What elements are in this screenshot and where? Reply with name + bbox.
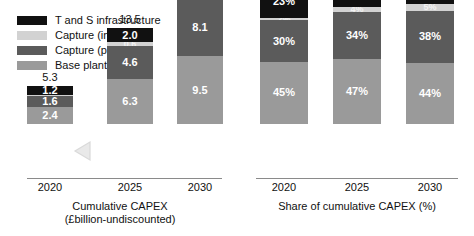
x-axis-line-left (27, 178, 222, 179)
chart-panel-cumulative-capex: 5.3 1.2 1.6 2.4 13.5 2.0 0.6 4.6 6.3 21.… (0, 0, 240, 236)
segment-capture-power-2025: 4.6 (107, 46, 153, 79)
segment-capture-power-share-2020: 30% (260, 20, 308, 61)
segment-base-plant-2030: 9.5 (177, 56, 223, 124)
play-triangle-watermark-icon (70, 138, 96, 164)
caption-left-line1: Cumulative CAPEX (0, 200, 240, 213)
plot-area-left: 5.3 1.2 1.6 2.4 13.5 2.0 0.6 4.6 6.3 21.… (0, 0, 240, 182)
segment-base-plant-2025: 6.3 (107, 79, 153, 124)
segment-capture-power-2020: 1.6 (27, 96, 73, 108)
segment-tands-share-2025: 15% (333, 0, 381, 7)
x-tick-right-2025: 2025 (333, 181, 381, 193)
x-tick-left-2030: 2030 (177, 181, 223, 193)
chart-panel-share-of-capex: 23% 2% 30% 45% 15% 4% 34% 47% 13% 5% 38%… (240, 0, 474, 236)
segment-capture-industry-share-2030: 5% (406, 4, 454, 11)
bar-2020-capex: 5.3 1.2 1.6 2.4 (27, 86, 73, 124)
segment-capture-power-share-2030: 38% (406, 11, 454, 63)
bar-2030-capex: 21.4 2.7 1.1 8.1 9.5 (177, 0, 223, 124)
x-axis-line-right (256, 178, 458, 179)
caption-left-line2: (£billion-undiscounted) (0, 213, 240, 226)
caption-right-line1: Share of cumulative CAPEX (%) (240, 200, 474, 213)
segment-tands-2025: 2.0 (107, 28, 153, 42)
bar-2025-share: 15% 4% 34% 47% (333, 0, 381, 124)
segment-tands-2020: 1.2 (27, 86, 73, 95)
segment-base-plant-share-2030: 44% (406, 63, 454, 124)
caption-left: Cumulative CAPEX (£billion-undiscounted) (0, 200, 240, 226)
segment-base-plant-share-2025: 47% (333, 59, 381, 124)
bar-total-2020: 5.3 (27, 71, 73, 83)
bar-2020-share: 23% 2% 30% 45% (260, 0, 308, 124)
segment-tands-share-2020: 23% (260, 0, 308, 18)
x-tick-right-2020: 2020 (260, 181, 308, 193)
bar-2030-share: 13% 5% 38% 44% (406, 0, 454, 124)
bar-total-2025: 13.5 (107, 13, 153, 25)
segment-base-plant-share-2020: 45% (260, 62, 308, 124)
bar-2025-capex: 13.5 2.0 0.6 4.6 6.3 (107, 28, 153, 124)
caption-right: Share of cumulative CAPEX (%) (240, 200, 474, 213)
x-tick-left-2025: 2025 (107, 181, 153, 193)
segment-capture-power-share-2025: 34% (333, 12, 381, 59)
segment-base-plant-2020: 2.4 (27, 107, 73, 124)
plot-area-right: 23% 2% 30% 45% 15% 4% 34% 47% 13% 5% 38%… (240, 0, 474, 182)
x-tick-left-2020: 2020 (27, 181, 73, 193)
segment-capture-power-2030: 8.1 (177, 0, 223, 56)
x-tick-right-2030: 2030 (406, 181, 454, 193)
stacked-bar-figure: T and S infrastructure Capture (industry… (0, 0, 474, 236)
